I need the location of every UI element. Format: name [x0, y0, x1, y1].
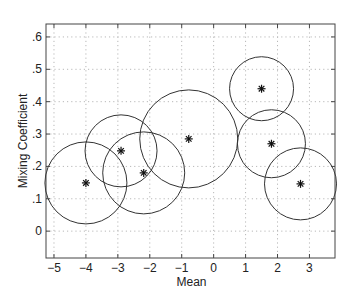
y-axis-label: Mixing Coefficient	[16, 93, 30, 188]
y-tick-label: .4	[32, 95, 42, 109]
star-marker-icon	[267, 140, 275, 148]
y-tick-label: .1	[32, 192, 42, 206]
y-tick-label: .2	[32, 159, 42, 173]
star-marker-icon	[258, 85, 266, 93]
x-tick-label: 0	[210, 261, 217, 275]
x-tick-label: 3	[306, 261, 313, 275]
y-tick-label: .6	[32, 30, 42, 44]
y-tick-label: 0	[35, 224, 42, 238]
star-marker-icon	[297, 180, 305, 188]
x-tick-label: −3	[111, 261, 125, 275]
y-tick-label: .3	[32, 127, 42, 141]
x-tick-labels: −5−4−3−2−10123	[47, 261, 313, 275]
x-tick-label: 1	[242, 261, 249, 275]
y-tick-labels: 0.1.2.3.4.5.6	[32, 30, 42, 238]
x-tick-label: −4	[79, 261, 93, 275]
x-tick-label: −2	[143, 261, 157, 275]
star-marker-icon	[117, 147, 125, 155]
chart: −5−4−3−2−10123 0.1.2.3.4.5.6 Mean Mixing…	[0, 0, 358, 301]
center-markers	[82, 85, 305, 188]
star-marker-icon	[82, 179, 90, 187]
star-marker-icon	[185, 135, 193, 143]
x-tick-label: 2	[274, 261, 281, 275]
x-tick-label: −1	[175, 261, 189, 275]
y-tick-label: .5	[32, 62, 42, 76]
x-tick-label: −5	[47, 261, 61, 275]
x-axis-label: Mean	[176, 275, 206, 289]
